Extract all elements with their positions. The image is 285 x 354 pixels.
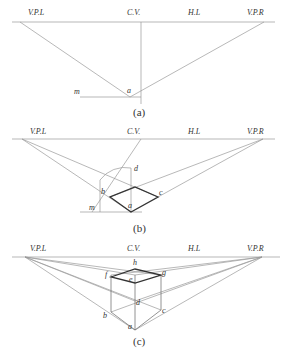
label-cv: C.V. xyxy=(127,244,140,253)
label-b: b xyxy=(103,311,107,320)
label-vpr: V.P.R xyxy=(247,127,264,136)
label-e: e xyxy=(129,275,133,284)
label-c: c xyxy=(159,188,163,197)
line-vpl-to-e xyxy=(25,257,135,275)
line-vpr-to-e xyxy=(135,257,262,275)
caption-a: (a) xyxy=(133,106,146,119)
label-a: a xyxy=(127,86,131,95)
label-hl: H.L xyxy=(187,127,201,136)
perspective-square xyxy=(110,187,158,212)
label-m: m xyxy=(74,87,80,96)
label-a: a xyxy=(128,201,132,210)
label-c: c xyxy=(162,306,166,315)
line-vpr-to-d xyxy=(135,257,262,301)
label-g: g xyxy=(162,268,166,277)
label-vpl: V.P.L xyxy=(30,244,47,253)
line-vpr-to-a xyxy=(130,22,264,97)
line-vpr-to-c xyxy=(158,139,263,197)
label-hl: H.L xyxy=(187,244,201,253)
caption-c: (c) xyxy=(133,335,146,348)
line-vpr-to-a xyxy=(135,257,262,330)
measuring-arc xyxy=(100,167,131,180)
label-d: d xyxy=(134,164,139,173)
label-b: b xyxy=(101,187,105,196)
label-vpl: V.P.L xyxy=(30,127,47,136)
label-h: h xyxy=(133,258,137,267)
two-point-perspective-diagram: V.P.L C.V. H.L V.P.R m a (a) V.P.L C.V. … xyxy=(0,0,285,354)
caption-b: (b) xyxy=(133,222,146,235)
label-vpr: V.P.R xyxy=(247,244,264,253)
panel-a: V.P.L C.V. H.L V.P.R m a (a) xyxy=(12,8,275,119)
cube-top-face xyxy=(111,269,161,283)
cube-edge-bottom-right xyxy=(135,310,161,330)
line-vpl-to-a xyxy=(20,22,130,97)
label-m: m xyxy=(89,203,95,212)
label-cv: C.V. xyxy=(127,8,140,17)
label-a: a xyxy=(128,322,132,331)
label-f: f xyxy=(105,270,109,279)
label-hl: H.L xyxy=(187,8,201,17)
label-vpl: V.P.L xyxy=(28,8,45,17)
label-vpr: V.P.R xyxy=(247,8,264,17)
panel-c: V.P.L C.V. H.L V.P.R h f g e d c b a (c) xyxy=(12,244,280,348)
line-vpl-to-g xyxy=(25,257,161,275)
panel-b: V.P.L C.V. H.L V.P.R m a b c d (b) xyxy=(12,127,275,235)
label-cv: C.V. xyxy=(127,127,140,136)
